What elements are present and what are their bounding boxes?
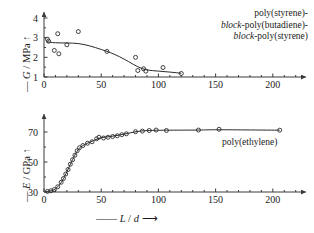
y-tick-label: 1: [33, 72, 38, 83]
data-point: [76, 30, 80, 34]
y-tick-label: 3: [33, 32, 38, 43]
bottom-chart: 050100150200305070: [28, 114, 306, 205]
data-point: [161, 66, 165, 70]
x-tick-label: 100: [151, 194, 166, 205]
x-tick-label: 0: [42, 194, 47, 205]
data-point: [52, 48, 56, 52]
data-point: [56, 32, 60, 36]
x-tick-label: 0: [42, 79, 47, 90]
data-point: [57, 52, 61, 56]
x-tick-label: 200: [265, 79, 280, 90]
fit-curve: [46, 130, 279, 192]
y-tick-label: 30: [28, 187, 38, 198]
top-chart: 0501001502001234: [33, 12, 306, 90]
data-point: [136, 69, 140, 73]
y-tick-label: 70: [28, 127, 38, 138]
x-tick-label: 150: [208, 194, 223, 205]
y-tick-label: 4: [33, 13, 38, 24]
plot-surface: 0501001502001234 050100150200305070: [0, 0, 314, 233]
y-tick-label: 2: [33, 52, 38, 63]
x-tick-label: 150: [208, 79, 223, 90]
figure-root: — G / MPa ↑ — E / GPa ↑ —— L / d ⟶ poly(…: [0, 0, 314, 233]
x-tick-label: 50: [96, 79, 106, 90]
x-tick-label: 50: [96, 194, 106, 205]
x-tick-label: 200: [265, 194, 280, 205]
y-tick-label: 50: [28, 157, 38, 168]
data-point: [134, 55, 138, 59]
x-tick-label: 100: [151, 79, 166, 90]
